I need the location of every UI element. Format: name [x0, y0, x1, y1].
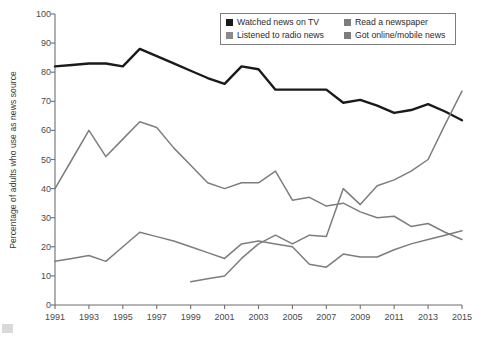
plot-area — [0, 0, 479, 338]
legend-item-label: Read a newspaper — [355, 16, 428, 28]
series-line-0 — [55, 49, 462, 120]
page-corner-mark — [2, 324, 13, 333]
legend-swatch-icon — [226, 19, 233, 26]
legend-swatch-icon — [226, 32, 233, 39]
legend-item-label: Listened to radio news — [237, 29, 324, 41]
legend-item-1: Read a newspaper — [344, 16, 457, 28]
series-line-2 — [55, 231, 462, 267]
chart-legend: Watched news on TVRead a newspaperListen… — [220, 13, 456, 45]
legend-item-0: Watched news on TV — [226, 16, 344, 28]
legend-swatch-icon — [344, 19, 351, 26]
legend-item-2: Listened to radio news — [226, 29, 344, 41]
legend-item-label: Got online/mobile news — [355, 29, 445, 41]
news-source-line-chart: Percentage of adults who use as news sou… — [0, 0, 479, 338]
legend-item-label: Watched news on TV — [237, 16, 319, 28]
legend-item-3: Got online/mobile news — [344, 29, 457, 41]
legend-swatch-icon — [344, 32, 351, 39]
series-line-1 — [55, 122, 462, 240]
